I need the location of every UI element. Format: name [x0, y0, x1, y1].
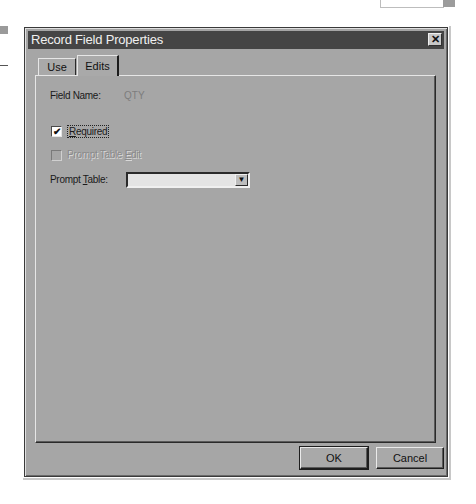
background-left-square: [0, 26, 8, 34]
close-button[interactable]: ✕: [428, 33, 442, 46]
background-square: [443, 0, 455, 7]
prompt-edit-rest: dit: [131, 149, 141, 160]
tab-edits[interactable]: Edits: [77, 55, 119, 76]
dropdown-button[interactable]: ▼: [235, 174, 248, 186]
prompt-table-rest: able:: [87, 174, 107, 185]
required-mnemonic: R: [69, 126, 76, 137]
background-box: [380, 0, 444, 8]
dialog-title: Record Field Properties: [31, 32, 163, 48]
tab-edits-label: Edits: [85, 60, 109, 72]
prompt-edit-prefix: Prompt Table: [67, 149, 125, 160]
prompt-table-edit-label: Prompt Table Edit: [67, 149, 141, 160]
required-label-rest: equired: [76, 126, 107, 137]
chevron-down-icon: ▼: [238, 175, 246, 184]
background-left-line: [0, 65, 8, 66]
prompt-table-edit-checkbox[interactable]: [51, 150, 62, 161]
field-name-value: QTY: [124, 90, 145, 101]
close-icon: ✕: [431, 33, 440, 45]
prompt-table-label: Prompt Table:: [50, 174, 108, 185]
ok-button[interactable]: OK: [300, 447, 368, 469]
tab-use-label: Use: [47, 61, 67, 73]
record-field-properties-dialog: Record Field Properties ✕ Use Edits Fiel…: [24, 27, 448, 477]
prompt-table-dropdown[interactable]: ▼: [126, 172, 250, 188]
field-name-label: Field Name:: [50, 90, 101, 101]
required-checkbox[interactable]: ✔: [51, 126, 62, 137]
tab-use[interactable]: Use: [38, 58, 76, 75]
edits-tab-panel: Field Name: QTY ✔ Required Prompt Table …: [35, 75, 436, 443]
checkmark-icon: ✔: [53, 126, 61, 137]
cancel-button[interactable]: Cancel: [376, 447, 444, 469]
required-label[interactable]: Required: [67, 125, 109, 138]
prompt-table-prefix: Prompt: [50, 174, 83, 185]
title-bar[interactable]: Record Field Properties ✕: [28, 31, 444, 49]
